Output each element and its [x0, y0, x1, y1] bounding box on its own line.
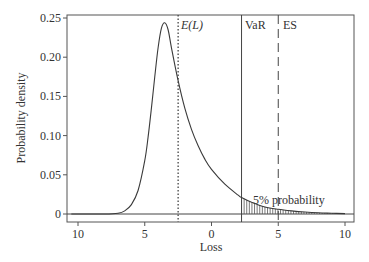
y-tick-label: 0.25: [40, 11, 61, 25]
y-tick-label: 0.15: [40, 89, 61, 103]
x-tick-label: 5: [142, 227, 148, 241]
var-label: VaR: [245, 18, 266, 32]
expected-loss-label: E(L): [180, 18, 203, 32]
risk-measure-lines: [178, 15, 278, 222]
y-tick-label: 0.10: [40, 129, 61, 143]
x-axis-label: Loss: [200, 240, 223, 254]
x-axis: 1050510: [72, 222, 351, 241]
x-tick-label: 10: [339, 227, 351, 241]
y-axis-label: Probability density: [14, 73, 28, 164]
y-tick-label: 0: [55, 207, 61, 221]
x-tick-label: 0: [209, 227, 215, 241]
es-label: ES: [283, 18, 297, 32]
density-curve: [71, 23, 345, 214]
x-tick-label: 5: [275, 227, 281, 241]
tail-probability-label: 5% probability: [253, 193, 325, 207]
y-tick-label: 0.20: [40, 50, 61, 64]
x-tick-label: 10: [72, 227, 84, 241]
y-tick-label: 0.05: [40, 168, 61, 182]
plot-frame: [67, 15, 354, 222]
loss-distribution-chart: 00.050.100.150.200.25 1050510 E(L) VaR E…: [0, 0, 369, 262]
y-axis: 00.050.100.150.200.25: [40, 11, 67, 221]
